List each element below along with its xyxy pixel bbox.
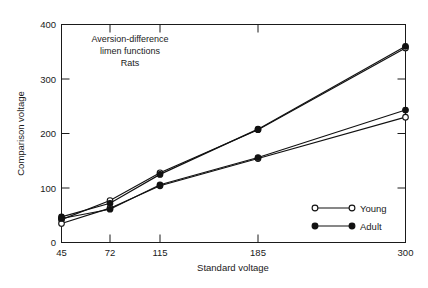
data-point-adult-lower-45: [59, 216, 65, 222]
y-tick-label-0: 0: [51, 237, 56, 248]
x-tick-label-300: 300: [398, 247, 414, 258]
legend-marker-young-right: [349, 205, 355, 211]
x-tick-label-115: 115: [152, 247, 167, 258]
legend-marker-adult-right: [349, 223, 355, 229]
annotation-line-1: Aversion-difference: [91, 34, 168, 44]
data-point-adult-upper-185: [255, 126, 261, 132]
chart-background: [0, 0, 428, 288]
annotation-line-2: limen functions: [100, 46, 161, 56]
data-point-adult-lower-300: [403, 107, 409, 113]
legend-marker-adult-left: [312, 223, 318, 229]
x-tick-label-45: 45: [56, 247, 67, 258]
x-axis-title: Standard voltage: [197, 262, 269, 273]
y-tick-label-100: 100: [40, 183, 56, 194]
chart-svg: 0 100 200 300 400 45 72 115 185 300 Stan…: [0, 0, 428, 288]
legend-label-young: Young: [360, 203, 387, 214]
y-axis-title: Comparison voltage: [15, 91, 26, 176]
data-point-adult-lower-72: [107, 206, 113, 212]
data-point-adult-lower-115: [157, 182, 163, 188]
legend-marker-young-left: [312, 205, 318, 211]
x-tick-label-72: 72: [105, 247, 116, 258]
data-point-adult-upper-115: [157, 172, 163, 178]
y-tick-label-200: 200: [40, 128, 56, 139]
chart-figure: 0 100 200 300 400 45 72 115 185 300 Stan…: [0, 0, 428, 288]
y-tick-label-400: 400: [40, 19, 56, 30]
data-point-adult-lower-185: [255, 155, 261, 161]
legend-label-adult: Adult: [360, 221, 382, 232]
data-point-adult-upper-300: [403, 44, 409, 50]
y-tick-label-300: 300: [40, 74, 56, 85]
x-tick-label-185: 185: [250, 247, 266, 258]
data-point-young-lower-300: [403, 114, 409, 120]
annotation-line-3: Rats: [121, 58, 140, 68]
